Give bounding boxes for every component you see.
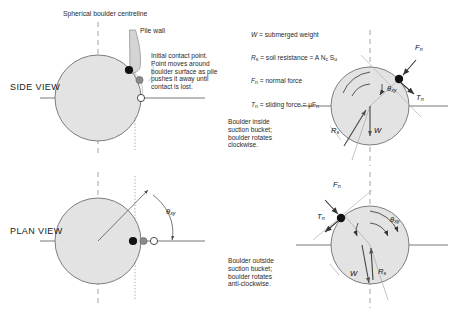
inside-rs-label: Rs	[331, 127, 339, 136]
outside-bucket-caption: Boulder outside suction bucket; boulder …	[228, 257, 274, 288]
outside-rs-label: Rs	[378, 268, 386, 277]
inside-contact-dot	[395, 75, 403, 83]
legend-line-fn: Fn = normal force	[251, 77, 337, 85]
contact-point-note: Initial contact point. Point moves aroun…	[151, 52, 217, 91]
final-contact-dot-side	[137, 94, 144, 101]
outside-contact-dot	[337, 214, 345, 222]
pile-wall-label: Pile wall	[140, 27, 165, 35]
legend-line-w: W = submerged weight	[251, 31, 337, 39]
diagram-vectors	[0, 0, 451, 314]
side-view-label: SIDE VIEW	[10, 82, 60, 93]
outside-w-label: W	[350, 270, 357, 279]
inside-bucket-caption: Boulder inside suction bucket; boulder r…	[228, 118, 272, 149]
intermediate-contact-dot-plan	[140, 237, 147, 244]
initial-contact-dot-side	[125, 66, 133, 74]
figure-canvas: Spherical boulder centreline Pile wall S…	[0, 0, 451, 314]
plan-view-group	[40, 172, 205, 307]
outside-tn-label: Tn	[317, 213, 325, 222]
outside-fn-arrow	[325, 200, 338, 214]
final-contact-dot-plan	[150, 237, 157, 244]
intermediate-contact-dot-side	[136, 76, 143, 83]
outside-bucket-force-diagram	[296, 172, 448, 308]
outside-theta-label: θxy	[390, 216, 400, 225]
plan-view-label: PLAN VIEW	[10, 226, 63, 237]
initial-contact-dot-plan	[129, 237, 137, 245]
theta-xy-arc-plan	[153, 195, 173, 240]
boulder-centreline-label: Spherical boulder centreline	[63, 10, 147, 18]
inside-fn-label: Fn	[415, 44, 423, 53]
inside-theta-label: θxy	[387, 85, 397, 94]
legend-line-rs: Rs = soil resistance = A Nc Su	[251, 54, 337, 62]
plan-theta-label: θxy	[166, 208, 176, 217]
inside-w-label: W	[374, 127, 381, 136]
inside-tn-label: Tn	[416, 94, 424, 103]
inside-fn-arrow	[403, 60, 416, 75]
outside-fn-label: Fn	[333, 181, 341, 190]
legend-line-tn: Tn = sliding force = μFn	[251, 101, 337, 109]
force-legend: W = submerged weight Rs = soil resistanc…	[251, 15, 337, 125]
